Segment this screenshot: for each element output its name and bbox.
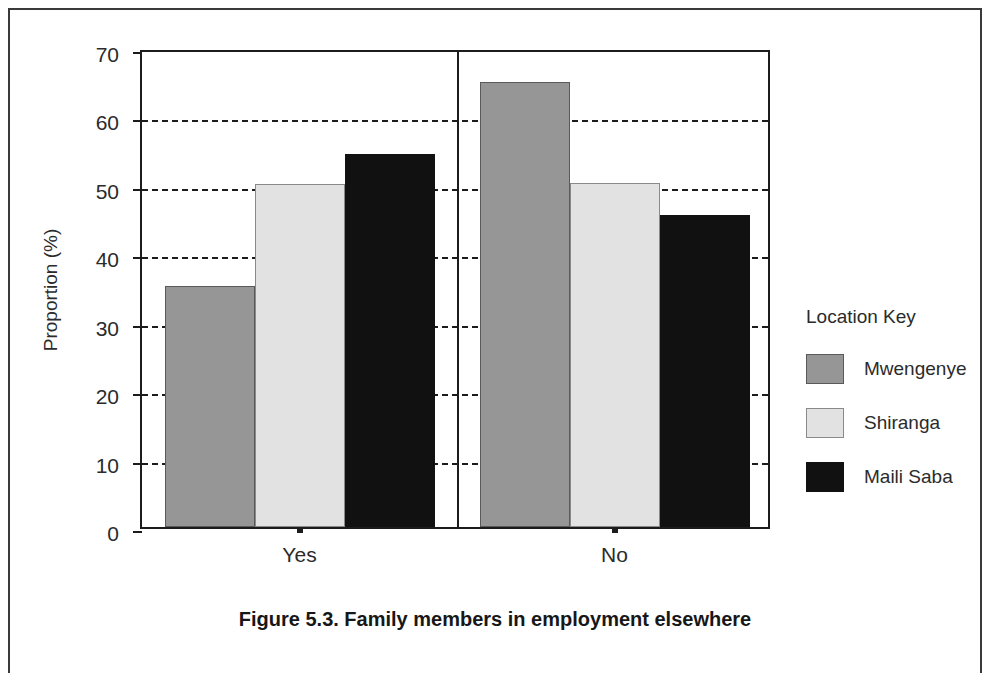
x-axis-tick — [297, 527, 303, 533]
group-separator-line — [457, 52, 459, 527]
x-axis-category-label: No — [601, 543, 628, 567]
y-axis-tick-label: 0 — [107, 523, 119, 544]
bar-no-mwengenye — [480, 82, 570, 527]
gridline — [142, 120, 768, 122]
y-axis-tick-label: 20 — [96, 386, 119, 407]
y-axis-tick: 50 — [133, 189, 142, 191]
y-axis-title-label: Proportion (%) — [40, 228, 62, 351]
legend-swatch-icon — [806, 354, 844, 384]
y-axis-tick-label: 10 — [96, 454, 119, 475]
y-axis-tick: 20 — [133, 394, 142, 396]
y-axis-tick: 30 — [133, 326, 142, 328]
legend-item-shiranga: Shiranga — [806, 396, 986, 450]
y-axis-tick: 10 — [133, 463, 142, 465]
y-axis-tick: 70 — [133, 52, 142, 54]
y-axis-tick: 0 — [133, 531, 142, 533]
y-axis-tick-label: 40 — [96, 249, 119, 270]
legend-swatch-icon — [806, 462, 844, 492]
legend-item-mwengenye: Mwengenye — [806, 342, 986, 396]
legend-swatch-icon — [806, 408, 844, 438]
legend-item-maili-saba: Maili Saba — [806, 450, 986, 504]
y-axis-tick: 40 — [133, 257, 142, 259]
legend-item-label: Shiranga — [864, 412, 940, 434]
gridline — [142, 189, 768, 191]
bar-yes-maili-saba — [345, 154, 435, 527]
bar-yes-mwengenye — [165, 286, 255, 527]
figure-frame: Proportion (%) 010203040506070 YesNo Loc… — [8, 8, 982, 673]
y-axis-tick-label: 70 — [96, 44, 119, 65]
y-axis-tick: 60 — [133, 120, 142, 122]
bar-no-maili-saba — [660, 215, 750, 527]
legend-item-label: Mwengenye — [864, 358, 966, 380]
bar-no-shiranga — [570, 183, 660, 527]
y-axis-tick-label: 30 — [96, 317, 119, 338]
legend: Location Key MwengenyeShirangaMaili Saba — [806, 306, 986, 504]
plot-area: 010203040506070 YesNo — [140, 50, 770, 529]
legend-rows: MwengenyeShirangaMaili Saba — [806, 342, 986, 504]
y-axis-tick-label: 60 — [96, 112, 119, 133]
x-axis-tick — [612, 527, 618, 533]
bar-yes-shiranga — [255, 184, 345, 528]
legend-title: Location Key — [806, 306, 986, 328]
y-axis-title: Proportion (%) — [38, 50, 64, 529]
figure-caption: Figure 5.3. Family members in employment… — [10, 608, 980, 631]
x-axis-category-label: Yes — [282, 543, 316, 567]
y-axis-tick-label: 50 — [96, 180, 119, 201]
legend-item-label: Maili Saba — [864, 466, 953, 488]
